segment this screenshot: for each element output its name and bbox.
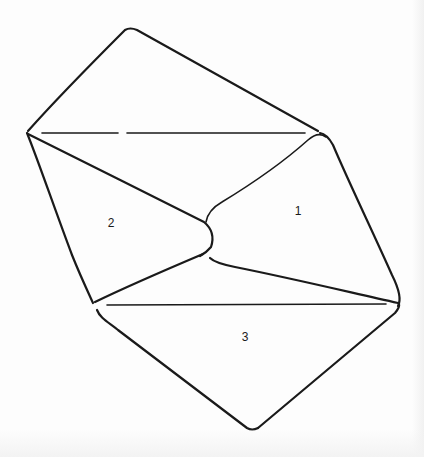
face-1-label: 1 (295, 205, 302, 217)
face-3-label: 3 (242, 331, 249, 343)
edge-bottom-left (97, 310, 258, 430)
edge-bottom-right (258, 304, 399, 428)
edge-right-outer (320, 133, 400, 306)
edge-face2-upper (28, 134, 212, 256)
edge-middle-horizontal (107, 304, 386, 305)
edge-face1-lower (210, 258, 398, 303)
edge-face2-lower (95, 254, 203, 302)
diagram-canvas: 1 2 3 (0, 0, 424, 457)
edge-top-left (28, 29, 318, 132)
edge-left-outer (27, 133, 93, 303)
folded-shape-drawing (0, 0, 424, 457)
edge-face1-upper (206, 135, 326, 222)
face-2-label: 2 (108, 217, 115, 229)
scan-edge-shade-bottom (0, 429, 424, 457)
scan-edge-shade-right (412, 0, 424, 457)
